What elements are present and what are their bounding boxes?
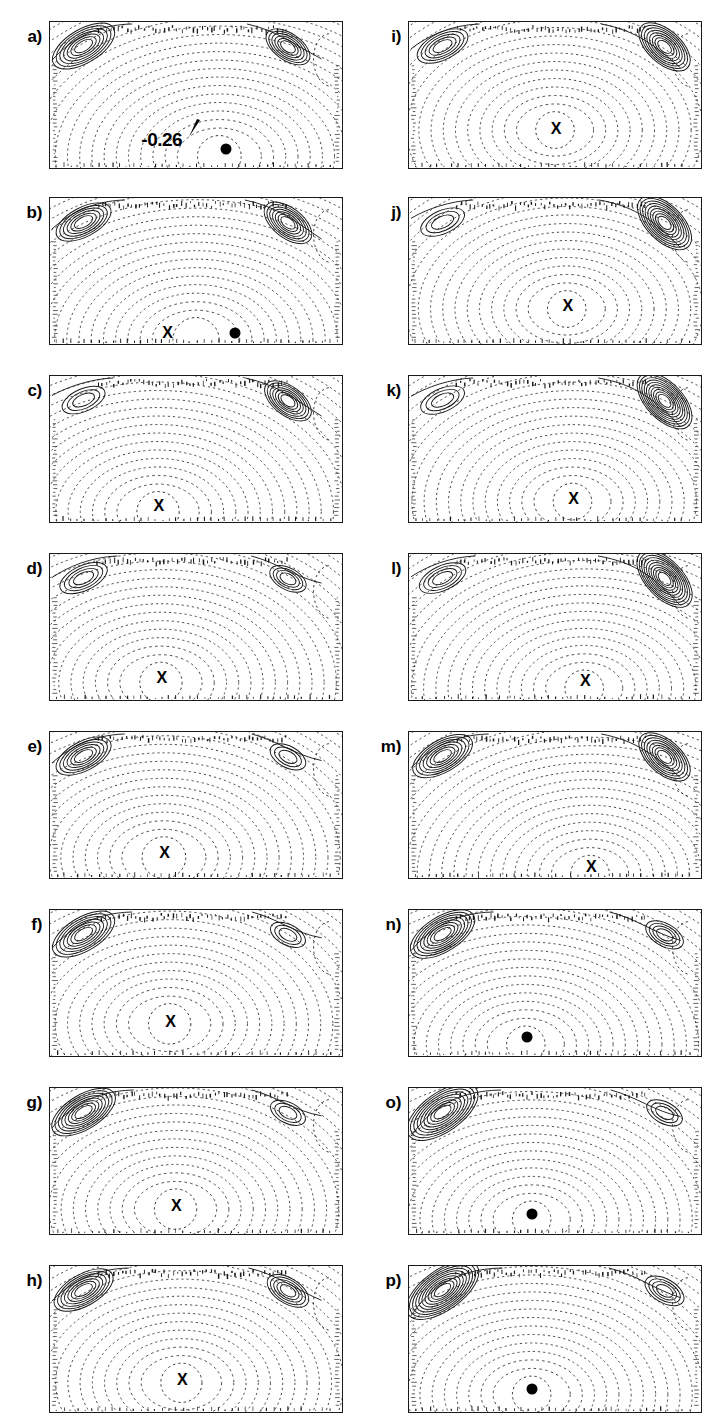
contour-panel-figure: a)-0.26b)Xc)Xd)Xe)Xf)Xg)Xh)Xi)Xj)Xk)Xl)X… — [0, 0, 722, 1424]
panel-frame-p — [408, 1265, 702, 1413]
contour-field-p — [409, 1266, 701, 1412]
contour-panel-p: p) — [0, 0, 722, 1424]
panel-label-p: p) — [367, 1271, 401, 1291]
extremum-dot-marker-p — [527, 1383, 538, 1394]
